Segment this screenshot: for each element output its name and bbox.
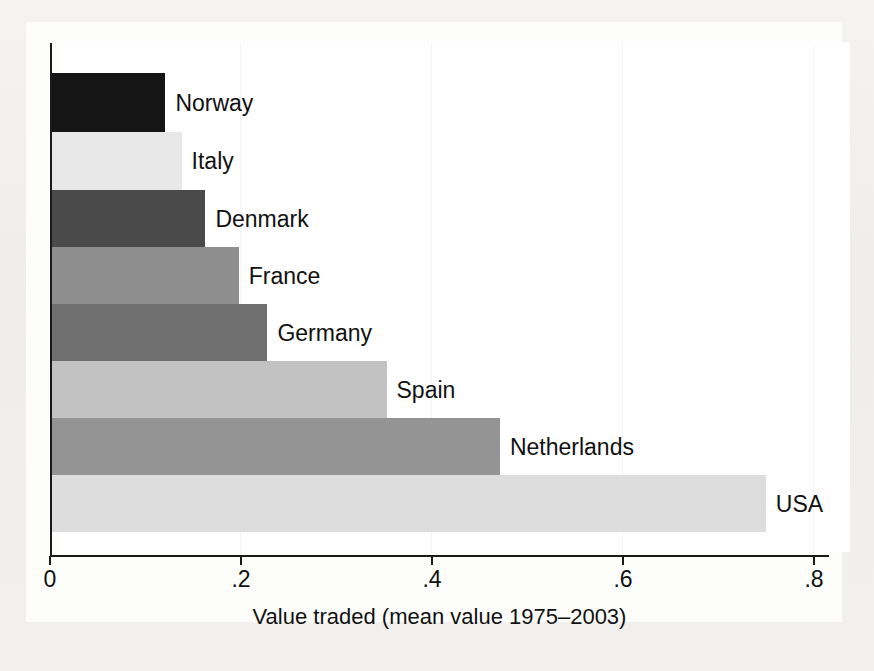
x-tick-label-0: 0 (44, 566, 57, 593)
bar-row-france: France (0, 247, 874, 304)
bar-italy[interactable] (52, 132, 182, 190)
bar-row-spain: Spain (0, 361, 874, 418)
bar-label-germany: Germany (277, 319, 372, 346)
bar-label-france: France (249, 262, 321, 289)
bar-netherlands[interactable] (52, 418, 500, 475)
x-tick-mark-0 (49, 556, 51, 565)
x-tick-label-2: .4 (422, 566, 441, 593)
bar-label-denmark: Denmark (215, 205, 308, 232)
bar-label-spain: Spain (397, 376, 456, 403)
x-axis-title: Value traded (mean value 1975–2003) (50, 604, 829, 630)
bar-denmark[interactable] (52, 190, 205, 247)
x-tick-label-3: .6 (613, 566, 632, 593)
bar-row-germany: Germany (0, 304, 874, 361)
x-tick-label-1: .2 (231, 566, 250, 593)
bar-row-usa: USA (0, 475, 874, 532)
bar-germany[interactable] (52, 304, 267, 361)
bar-row-denmark: Denmark (0, 190, 874, 247)
bar-usa[interactable] (52, 475, 766, 532)
chart-page: Norway Italy Denmark France Germany Spai… (0, 0, 874, 671)
x-tick-mark-1 (240, 556, 242, 565)
x-tick-label-4: .8 (804, 566, 823, 593)
bar-label-usa: USA (776, 490, 823, 517)
bar-label-italy: Italy (192, 148, 234, 175)
bar-row-norway: Norway (0, 73, 874, 132)
bar-label-norway: Norway (175, 89, 253, 116)
bar-row-netherlands: Netherlands (0, 418, 874, 475)
x-tick-mark-3 (622, 556, 624, 565)
bar-label-netherlands: Netherlands (510, 433, 634, 460)
x-tick-mark-2 (431, 556, 433, 565)
x-tick-mark-4 (813, 556, 815, 565)
bar-france[interactable] (52, 247, 239, 304)
bar-norway[interactable] (52, 73, 165, 132)
bar-row-italy: Italy (0, 132, 874, 190)
bar-spain[interactable] (52, 361, 387, 418)
